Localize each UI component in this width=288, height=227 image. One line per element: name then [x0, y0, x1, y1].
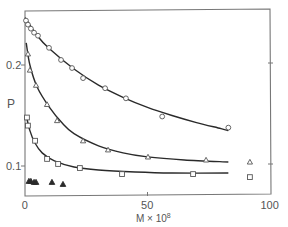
y-tick-label: 0.1 [6, 160, 21, 172]
square-marker [45, 157, 50, 162]
fitted-curve [26, 43, 228, 162]
x-tick-label: 100 [260, 199, 278, 211]
square-marker [25, 115, 30, 120]
circle-marker [160, 114, 165, 119]
circle-marker [226, 125, 231, 130]
x-tick-label: 0 [22, 199, 28, 211]
circle-marker [103, 86, 108, 91]
axis-ticks: 0.10.2050100 [6, 59, 279, 211]
filled-triangle-marker [60, 181, 66, 186]
plot-frame [25, 9, 271, 196]
circle-marker [47, 45, 52, 50]
square-marker [26, 123, 31, 128]
circle-marker [36, 33, 41, 38]
square-marker [33, 138, 38, 143]
square-marker [248, 175, 253, 180]
chart-svg: 0.10.2050100 P M × 108 [0, 0, 288, 227]
x-axis-label: M × 108 [136, 212, 171, 224]
fitted-curves [25, 18, 228, 174]
y-axis-label: P [7, 97, 15, 111]
triangle-marker [33, 83, 38, 88]
circle-marker [70, 66, 75, 71]
filled-triangle-marker [49, 179, 55, 184]
circle-marker [124, 96, 129, 101]
square-marker [56, 162, 61, 167]
square-marker [120, 172, 125, 177]
circle-marker [81, 76, 86, 81]
fitted-curve [25, 18, 228, 131]
plot-border [25, 9, 271, 196]
x-tick-label: 50 [141, 199, 153, 211]
square-marker [191, 172, 196, 177]
triangle-marker [25, 51, 30, 56]
square-marker [77, 166, 82, 171]
triangle-marker [44, 102, 49, 107]
triangle-marker [247, 159, 252, 164]
x-axis-label-text: M × 10 [136, 213, 167, 224]
circle-marker [59, 58, 64, 63]
triangle-marker [203, 157, 208, 162]
x-axis-label-exponent: 8 [167, 212, 171, 219]
y-tick-label: 0.2 [6, 59, 21, 71]
